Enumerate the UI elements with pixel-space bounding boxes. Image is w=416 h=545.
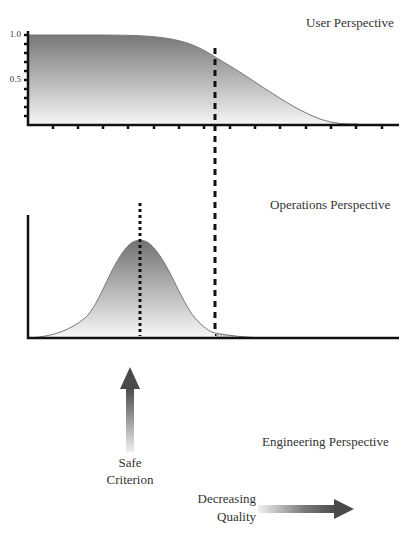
decreasing-quality-arrow	[258, 499, 354, 519]
quality-label: Quality	[180, 509, 256, 525]
decreasing-label: Decreasing	[180, 491, 256, 507]
safe-criterion-arrow	[120, 367, 140, 452]
y-tick-1-0: 1.0	[2, 29, 21, 39]
engineering-perspective-title: Engineering Perspective	[262, 434, 389, 450]
safe-label: Safe	[100, 455, 160, 471]
criterion-label: Criterion	[100, 472, 160, 488]
operations-perspective-title: Operations Perspective	[270, 197, 390, 213]
operations-perspective-chart	[27, 203, 399, 339]
figure-canvas	[0, 0, 416, 545]
y-tick-0-5: 0.5	[2, 74, 21, 84]
user-perspective-title: User Perspective	[306, 15, 394, 31]
bell-curve-area	[30, 240, 215, 338]
user-perspective-chart	[24, 31, 399, 129]
survival-curve-area	[28, 35, 358, 125]
